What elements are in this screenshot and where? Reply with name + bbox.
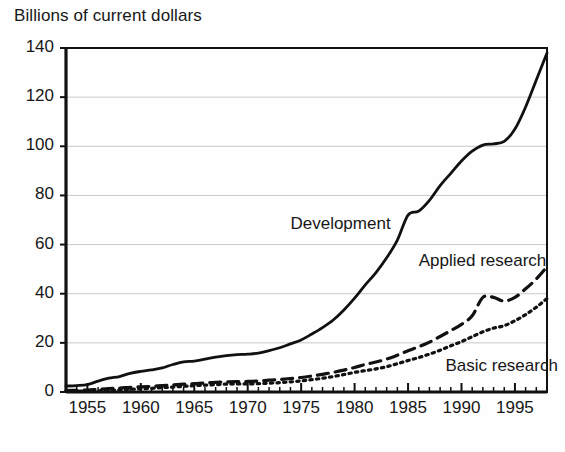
series-label-applied-research: Applied research: [419, 251, 547, 271]
series-label-development: Development: [290, 214, 390, 234]
series-label-basic-research: Basic research: [445, 356, 557, 376]
plot-canvas: [0, 0, 565, 452]
chart-container: Billions of current dollars 020406080100…: [0, 0, 565, 452]
